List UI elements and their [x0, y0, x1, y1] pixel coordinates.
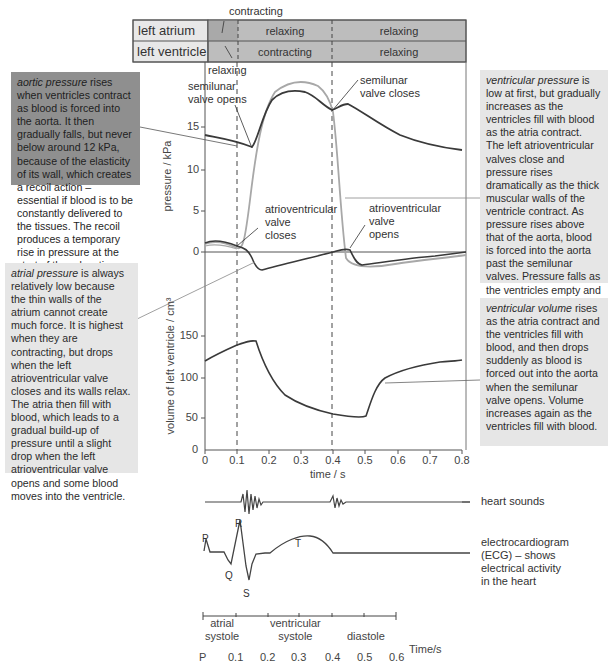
pressure-axis-label: pressure / kPa — [161, 136, 173, 216]
ecg-label-line: in the heart — [481, 575, 569, 588]
av-closes-label: atrioventricular valve closes — [265, 203, 337, 242]
ventricular-pressure-note: ventricular pressure is low at first, bu… — [480, 70, 608, 283]
timeline-tick: 0.4 — [325, 651, 340, 663]
x-tick: 0.2 — [260, 454, 278, 466]
timeline-tick: 0.6 — [389, 651, 404, 663]
callout-line-1: atrioventricular — [369, 202, 441, 215]
volume-tick-100: 100 — [178, 371, 198, 383]
pressure-tick-5: 5 — [187, 204, 199, 216]
callout-line-1: semilunar — [360, 74, 420, 87]
ecg-label-line: electrical activity — [481, 562, 569, 575]
ventricular-volume-line — [205, 341, 462, 417]
ecg-q-label: Q — [225, 570, 233, 581]
av-opens-label: atrioventricular valve opens — [369, 202, 441, 241]
phase-line: ventricular — [270, 617, 321, 630]
callout-line-1: semilunar — [188, 80, 247, 93]
timeline-tick: P — [199, 651, 206, 663]
x-tick: 0.1 — [228, 454, 246, 466]
note-text: is low at first, but gradually increases… — [486, 74, 601, 309]
ventricular-volume-note: ventricular volume rises as the atria co… — [480, 298, 608, 446]
volume-tick-0: 0 — [178, 443, 198, 455]
x-tick: 0 — [200, 454, 210, 466]
timeline-tick: 0.5 — [357, 651, 372, 663]
timeline-tick: 0.3 — [291, 651, 306, 663]
callout-line-3: opens — [369, 228, 441, 241]
note-title: aortic pressure — [17, 76, 87, 88]
pressure-tick-0: 0 — [187, 245, 199, 257]
x-tick: 0.7 — [421, 454, 439, 466]
note-text: rises as the atria contract and the vent… — [486, 302, 600, 432]
volume-axis-label: volume of left ventricle / cm³ — [164, 286, 176, 446]
phase-line: systole — [270, 630, 321, 643]
x-tick: 0.5 — [356, 454, 374, 466]
phase-atrial-systole: atrial systole — [205, 617, 239, 643]
semilunar-closes-label: semilunar valve closes — [360, 74, 420, 100]
note-title: atrial pressure — [11, 267, 78, 279]
callout-line-2: valve opens — [188, 93, 247, 106]
callout-line-3: closes — [265, 229, 337, 242]
heart-sounds-label: heart sounds — [481, 495, 545, 507]
callout-line-2: valve closes — [360, 87, 420, 100]
atrial-pressure-line — [205, 241, 466, 270]
x-tick: 0.6 — [389, 454, 407, 466]
ecg-p-label: P — [202, 533, 209, 544]
aortic-pressure-note: aortic pressure rises when ventricles co… — [11, 72, 140, 185]
atrial-pressure-note: atrial pressure is always relatively low… — [5, 263, 138, 473]
time-axis-label: time / s — [310, 468, 345, 480]
volume-tick-150: 150 — [178, 329, 198, 341]
note-text: rises when ventricles contract as blood … — [17, 76, 133, 284]
note-text: is always relatively low because the thi… — [11, 267, 131, 502]
semilunar-opens-label: semilunar valve opens — [188, 80, 247, 106]
callout-line-1: atrioventricular — [265, 203, 337, 216]
ecg-label-line: electrocardiogram — [481, 536, 569, 549]
x-tick: 0.8 — [453, 454, 471, 466]
ecg-label: electrocardiogram (ECG) – shows electric… — [481, 536, 569, 588]
x-tick: 0.4 — [324, 454, 342, 466]
phase-ventricular-systole: ventricular systole — [270, 617, 321, 643]
note-title: ventricular pressure — [486, 74, 579, 86]
phase-diastole: diastole — [347, 630, 385, 642]
x-tick: 0.3 — [292, 454, 310, 466]
timeline-tick: 0.2 — [260, 651, 275, 663]
callout-line-2: valve — [265, 216, 337, 229]
volume-tick-50: 50 — [178, 411, 198, 423]
pressure-tick-15: 15 — [187, 120, 199, 132]
ecg-t-label: T — [295, 538, 301, 549]
ecg-s-label: S — [243, 588, 250, 599]
phase-line: systole — [205, 630, 239, 643]
pressure-tick-10: 10 — [187, 163, 199, 175]
heart-sounds-trace — [205, 490, 470, 514]
ecg-r-label: R — [235, 518, 242, 529]
note-title: ventricular volume — [486, 302, 572, 314]
timeline-tick: 0.1 — [228, 651, 243, 663]
ecg-label-line: (ECG) – shows — [481, 549, 569, 562]
ecg-trace — [204, 520, 470, 580]
phase-line: atrial — [205, 617, 239, 630]
timeline-unit: Time/s — [409, 643, 442, 655]
callout-line-2: valve — [369, 215, 441, 228]
